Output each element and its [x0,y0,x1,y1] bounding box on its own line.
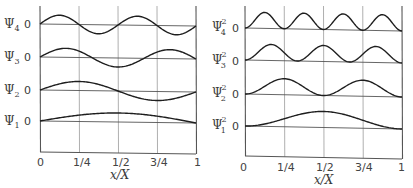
label-psi2: Ψ2 [4,83,20,99]
right-panel-psi-squared: Ψ24 0 Ψ23 0 Ψ22 0 Ψ21 0 0 1/4 1/2 3/4 1 … [212,6,405,187]
zero-psi1: 0 [24,115,31,128]
right-xtick-3: 3/4 [355,161,373,174]
wavefunction-figure: Ψ4 0 Ψ3 0 Ψ2 0 Ψ1 0 0 1/4 1/2 3/4 1 x/X … [0,0,413,188]
left-xtick-4: 1 [194,156,201,169]
right-xlabel: x/X [314,173,334,187]
left-xtick-3: 3/4 [150,156,168,169]
zero-psi2-sq: 0 [232,88,239,101]
label-psi3-sq: Ψ23 [212,50,227,70]
left-panel-psi: Ψ4 0 Ψ3 0 Ψ2 0 Ψ1 0 0 1/4 1/2 3/4 1 x/X [4,6,201,182]
right-xtick-4: 1 [398,161,405,174]
zero-psi2: 0 [24,84,31,97]
zero-psi4: 0 [24,18,31,31]
label-psi1: Ψ1 [4,114,20,130]
label-psi4: Ψ4 [4,17,20,33]
label-psi4-sq: Ψ24 [212,17,227,37]
label-psi3: Ψ3 [4,50,20,66]
zero-psi3-sq: 0 [232,55,239,68]
zero-psi3: 0 [24,51,31,64]
right-xtick-0: 0 [240,161,247,174]
left-xtick-0: 0 [37,156,44,169]
left-grid [40,6,197,154]
zero-psi4-sq: 0 [232,22,239,35]
zero-psi1-sq: 0 [232,120,239,133]
left-xtick-1: 1/4 [73,156,91,169]
left-xlabel: x/X [110,168,130,182]
label-psi1-sq: Ψ21 [212,115,227,135]
right-xtick-1: 1/4 [277,161,295,174]
label-psi2-sq: Ψ22 [212,83,227,103]
